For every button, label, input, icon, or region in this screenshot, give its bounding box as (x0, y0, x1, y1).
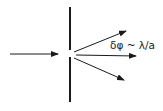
diffraction-diagram (0, 0, 163, 111)
angular-spread-label: δφ ~ λ/a (110, 39, 155, 51)
diffracted-arrow-lower (74, 58, 124, 80)
diffracted-arrow-center (76, 55, 136, 56)
